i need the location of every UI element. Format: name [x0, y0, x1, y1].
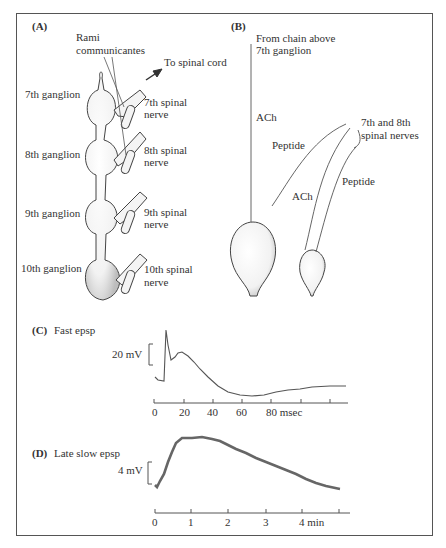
tick-label-4min: 4 min — [299, 516, 324, 529]
late-slow-epsp-trace — [155, 437, 340, 489]
spinal-nerves-label-2: spinal nerves — [361, 129, 419, 142]
panel-a-label: (A) — [32, 20, 47, 33]
to-spinal-cord-label: To spinal cord — [164, 56, 227, 69]
tick-label-3min: 3 — [263, 516, 269, 529]
peptide-label-1: Peptide — [272, 139, 305, 152]
nerve-10-label: 10th spinal — [144, 263, 193, 276]
tick-label-1min: 1 — [188, 516, 194, 529]
to-spinal-cord-arrow — [146, 69, 162, 80]
fast-epsp-chart — [149, 330, 348, 403]
rami-label-line2: communicantes — [76, 44, 145, 57]
panel-d-title: Late slow epsp — [54, 447, 120, 460]
scale-bar-20mv — [149, 344, 153, 365]
nerve-9-label-2: nerve — [144, 218, 168, 231]
scale-bar-4mv — [148, 462, 152, 484]
tick-label-60: 60 — [236, 406, 247, 419]
ach-label-1: ACh — [256, 111, 277, 124]
ganglion-8-label: 8th ganglion — [25, 148, 80, 161]
tick-label-80: 80 msec — [266, 406, 302, 419]
panel-c-label: (C) — [32, 324, 47, 337]
ach-label-2: ACh — [292, 190, 313, 203]
panel-b-label: (B) — [231, 20, 246, 33]
ganglion-9-label: 9th ganglion — [25, 207, 80, 220]
tick-label-0: 0 — [152, 406, 158, 419]
axons — [251, 44, 360, 252]
fast-epsp-trace — [155, 330, 346, 396]
tick-label-0min: 0 — [152, 516, 158, 529]
tick-label-20: 20 — [179, 406, 190, 419]
scale-label-20mv: 20 mV — [112, 348, 142, 361]
panel-c-title: Fast epsp — [54, 324, 95, 337]
panel-d-label: (D) — [32, 447, 47, 460]
from-chain-label-2: 7th ganglion — [256, 44, 311, 57]
spinal-nerves — [114, 90, 147, 295]
nerve-10-label-2: nerve — [144, 276, 168, 289]
tick-label-40: 40 — [207, 406, 218, 419]
rami-label: Rami — [76, 31, 100, 44]
nerve-7-label-2: nerve — [144, 108, 168, 121]
ganglion-10-label: 10th ganglion — [21, 262, 82, 275]
spinal-nerves-label: 7th and 8th — [361, 116, 411, 129]
neurons — [230, 222, 325, 296]
sympathetic-chain — [85, 72, 119, 300]
peptide-label-2: Peptide — [342, 175, 375, 188]
late-slow-epsp-chart — [148, 437, 350, 513]
ganglion-7-label: 7th ganglion — [25, 88, 80, 101]
scale-label-4mv: 4 mV — [118, 464, 143, 477]
nerve-8-label-2: nerve — [144, 156, 168, 169]
tick-label-2min: 2 — [225, 516, 231, 529]
